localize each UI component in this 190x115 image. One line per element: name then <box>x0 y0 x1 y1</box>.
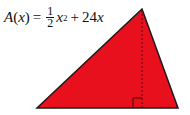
function-name: A <box>4 9 13 26</box>
term1-variable: x <box>56 9 63 26</box>
fraction-one-half: 1 2 <box>46 6 54 29</box>
function-variable: x <box>18 9 25 26</box>
term1-exponent: 2 <box>63 13 68 23</box>
equals-sign: = <box>33 9 41 26</box>
term2-coefficient: 24 <box>82 9 97 26</box>
term2-variable: x <box>97 9 104 26</box>
area-formula: A (x) = 1 2 x2 + 24x <box>4 6 104 29</box>
plus-sign: + <box>70 9 78 26</box>
